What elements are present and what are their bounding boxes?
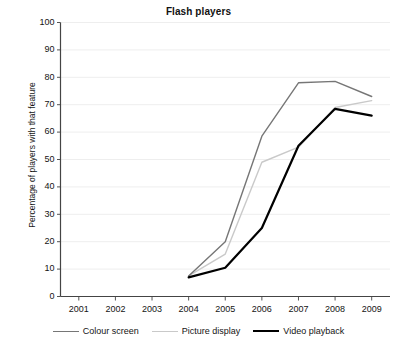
x-tick-label: 2002 — [105, 304, 125, 314]
x-tick-label: 2005 — [215, 304, 235, 314]
data-series-group — [189, 81, 372, 277]
y-tick-label: 20 — [44, 236, 54, 246]
legend-line-swatch — [253, 330, 279, 332]
y-tick-label: 30 — [44, 209, 54, 219]
y-tick-label: 50 — [44, 154, 54, 164]
legend-line-swatch — [53, 331, 79, 332]
legend-label: Video playback — [283, 326, 344, 336]
legend-item: Picture display — [152, 326, 241, 336]
x-tick-label: 2009 — [362, 304, 382, 314]
y-tick-label: 100 — [39, 17, 54, 27]
legend-item: Colour screen — [53, 326, 139, 336]
y-tick-label: 90 — [44, 44, 54, 54]
plot-area: 0102030405060708090100 20012002200320042… — [0, 0, 397, 352]
y-tick-label: 40 — [44, 181, 54, 191]
legend-item: Video playback — [253, 326, 344, 336]
chart-figure: Flash players Percentage of players with… — [0, 0, 397, 352]
x-tick-label: 2004 — [179, 304, 199, 314]
x-ticks-group: 200120022003200420052006200720082009 — [69, 297, 382, 314]
gridlines-group — [61, 23, 391, 270]
x-tick-label: 2006 — [252, 304, 272, 314]
legend-label: Colour screen — [83, 326, 139, 336]
y-ticks-group: 0102030405060708090100 — [39, 17, 60, 301]
y-tick-label: 0 — [49, 291, 54, 301]
x-tick-label: 2008 — [325, 304, 345, 314]
x-tick-label: 2007 — [288, 304, 308, 314]
y-tick-label: 10 — [44, 263, 54, 273]
y-tick-label: 70 — [44, 99, 54, 109]
series-line-video-playback — [189, 109, 372, 278]
chart-legend: Colour screenPicture displayVideo playba… — [0, 326, 397, 336]
y-tick-label: 80 — [44, 72, 54, 82]
legend-label: Picture display — [182, 326, 241, 336]
y-tick-label: 60 — [44, 126, 54, 136]
legend-line-swatch — [152, 331, 178, 332]
x-tick-label: 2001 — [69, 304, 89, 314]
x-tick-label: 2003 — [142, 304, 162, 314]
